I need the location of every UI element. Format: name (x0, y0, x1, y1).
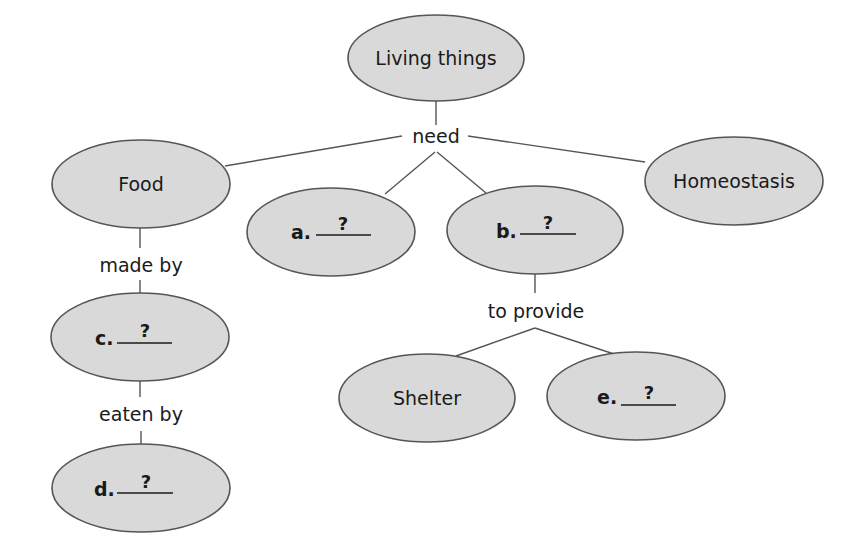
node-e-question: ? (644, 382, 654, 403)
node-c-question: ? (140, 320, 150, 341)
node-d-question: ? (141, 471, 151, 492)
node-homeostasis: Homeostasis (645, 137, 823, 225)
node-shelter-label: Shelter (393, 387, 461, 409)
node-a: a. ? (247, 188, 415, 276)
node-shelter: Shelter (339, 354, 515, 442)
node-homeostasis-label: Homeostasis (673, 170, 795, 192)
edge-need-food (225, 136, 402, 166)
node-b: b. ? (447, 186, 623, 274)
node-e: e. ? (547, 352, 725, 440)
node-d-letter: d. (94, 478, 115, 500)
edge-need-b (437, 152, 486, 193)
edge-need-a (385, 152, 435, 194)
node-food-label: Food (118, 173, 164, 195)
link-need: need (412, 125, 459, 147)
edge-toprovide-shelter (456, 328, 535, 356)
concept-map: need made by eaten by to provide Living … (0, 0, 853, 556)
node-a-letter: a. (291, 221, 311, 243)
link-made-by: made by (99, 254, 182, 276)
node-d: d. ? (52, 444, 230, 532)
node-a-question: ? (338, 213, 348, 234)
edge-toprovide-e (535, 328, 614, 354)
link-to-provide: to provide (488, 300, 584, 322)
node-food: Food (52, 140, 230, 228)
link-eaten-by: eaten by (99, 403, 183, 425)
node-c: c. ? (51, 293, 229, 381)
edge-need-homeostasis (468, 136, 645, 162)
node-living-things: Living things (348, 15, 524, 101)
node-b-letter: b. (496, 220, 517, 242)
node-b-question: ? (543, 212, 553, 233)
node-c-letter: c. (95, 327, 113, 349)
node-e-letter: e. (597, 386, 617, 408)
node-living-things-label: Living things (375, 47, 496, 69)
